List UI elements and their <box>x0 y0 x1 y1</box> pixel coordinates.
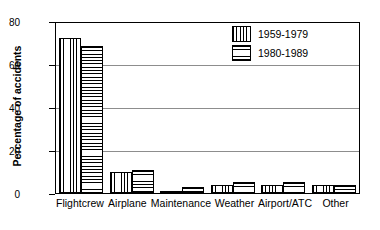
y-tick-mark <box>49 194 55 195</box>
x-tick-label: Airplane <box>104 197 151 209</box>
bar-groups <box>56 23 359 193</box>
legend-label: 1980-1989 <box>258 47 308 59</box>
legend-swatch <box>232 26 251 42</box>
bar <box>160 191 182 193</box>
bar <box>132 170 154 193</box>
x-tick-label: Weather <box>211 197 258 209</box>
bar-chart-figure: Percentage of accidents 020406080 Flight… <box>0 0 380 230</box>
x-tick-label: Other <box>312 197 359 209</box>
bar <box>283 182 305 193</box>
x-tick-label: Maintenance <box>151 197 211 209</box>
bar-group <box>107 23 158 193</box>
bar <box>110 172 132 193</box>
legend-item: 1980-1989 <box>232 45 308 61</box>
bar <box>334 185 356 194</box>
legend-label: 1959-1979 <box>258 28 308 40</box>
y-tick-label: 0 <box>0 189 20 200</box>
legend-swatch <box>232 45 251 61</box>
bar-group <box>56 23 107 193</box>
bar-group <box>309 23 360 193</box>
bar <box>59 38 81 193</box>
y-tick-label: 80 <box>0 17 20 28</box>
legend-item: 1959-1979 <box>232 26 308 42</box>
x-axis-labels: FlightcrewAirplaneMaintenanceWeatherAirp… <box>56 197 359 209</box>
bar <box>182 187 204 193</box>
bar <box>261 185 283 194</box>
y-tick-label: 60 <box>0 60 20 71</box>
x-tick-label: Flightcrew <box>56 197 104 209</box>
bar <box>211 185 233 194</box>
x-tick-label: Airport/ATC <box>258 197 312 209</box>
y-tick-label: 20 <box>0 146 20 157</box>
y-tick-label: 40 <box>0 103 20 114</box>
bar <box>233 182 255 193</box>
bar-group <box>157 23 208 193</box>
bar <box>312 185 334 194</box>
chart-legend: 1959-19791980-1989 <box>232 26 308 61</box>
bar <box>81 46 103 193</box>
